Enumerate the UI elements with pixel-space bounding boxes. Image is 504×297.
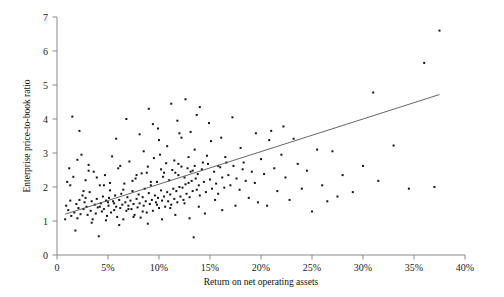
data-point <box>372 91 374 93</box>
data-point <box>236 178 238 180</box>
data-point <box>205 191 207 193</box>
data-point <box>76 217 78 219</box>
data-point <box>282 125 284 127</box>
data-point <box>142 196 144 198</box>
data-point <box>170 204 172 206</box>
data-point <box>136 198 138 200</box>
data-point <box>164 206 166 208</box>
data-point <box>114 195 116 197</box>
data-point <box>129 200 131 202</box>
data-point <box>352 191 354 193</box>
data-point <box>91 222 93 224</box>
data-point <box>176 201 178 203</box>
data-point <box>188 156 190 158</box>
x-tick-label: 30% <box>354 262 372 273</box>
data-point <box>189 217 191 219</box>
data-point <box>139 202 141 204</box>
data-point <box>239 189 241 191</box>
y-tick-label: 1 <box>43 216 48 227</box>
x-tick-label: 10% <box>150 262 168 273</box>
data-point <box>96 176 98 178</box>
x-axis-title: Return on net operating assets <box>204 277 319 287</box>
data-point <box>181 187 183 189</box>
data-point <box>220 137 222 139</box>
data-point <box>199 195 201 197</box>
data-point <box>143 150 145 152</box>
data-point <box>231 116 233 118</box>
data-point <box>108 197 110 199</box>
data-point <box>140 217 142 219</box>
data-point <box>146 212 148 214</box>
data-point <box>122 218 124 220</box>
y-tick-label: 7 <box>43 12 48 23</box>
data-point <box>109 189 111 191</box>
data-point <box>115 138 117 140</box>
data-point <box>163 196 165 198</box>
data-point <box>118 199 120 201</box>
data-point <box>175 190 177 192</box>
data-point <box>173 159 175 161</box>
data-point <box>165 162 167 164</box>
data-point <box>180 166 182 168</box>
data-point <box>213 171 215 173</box>
data-point <box>119 207 121 209</box>
data-point <box>138 193 140 195</box>
data-point <box>242 168 244 170</box>
data-point <box>321 184 323 186</box>
data-point <box>141 172 143 174</box>
data-point <box>215 183 217 185</box>
data-point <box>148 108 150 110</box>
data-point <box>95 213 97 215</box>
data-point <box>342 174 344 176</box>
data-point <box>229 184 231 186</box>
data-point <box>121 204 123 206</box>
data-point <box>177 163 179 165</box>
data-point <box>174 172 176 174</box>
data-point <box>306 170 308 172</box>
y-tick-label: 0 <box>43 250 48 261</box>
data-point <box>125 118 127 120</box>
data-point <box>101 210 103 212</box>
data-point <box>108 205 110 207</box>
axis-frame <box>57 17 465 255</box>
data-point <box>293 138 295 140</box>
data-point <box>107 201 109 203</box>
data-point <box>232 165 234 167</box>
data-point <box>337 196 339 198</box>
data-point <box>87 214 89 216</box>
data-point <box>146 172 148 174</box>
ticks-group <box>53 17 466 260</box>
data-point <box>180 137 182 139</box>
data-point <box>206 155 208 157</box>
data-point <box>270 130 272 132</box>
axes-group <box>57 17 465 255</box>
data-point <box>88 170 90 172</box>
data-point <box>166 145 168 147</box>
data-point <box>187 167 189 169</box>
y-tick-label: 3 <box>43 148 48 159</box>
data-point <box>148 192 150 194</box>
data-point <box>118 224 120 226</box>
data-point <box>93 171 95 173</box>
data-point <box>224 156 226 158</box>
data-point <box>161 200 163 202</box>
data-point <box>408 188 410 190</box>
data-point <box>439 30 441 32</box>
data-point <box>75 203 77 205</box>
data-point <box>194 165 196 167</box>
data-point <box>204 213 206 215</box>
x-tick-label: 40% <box>456 262 474 273</box>
data-point <box>221 176 223 178</box>
data-point <box>77 207 79 209</box>
data-point <box>202 162 204 164</box>
data-point <box>158 207 160 209</box>
data-point <box>110 212 112 214</box>
data-point <box>84 201 86 203</box>
data-point <box>135 178 137 180</box>
data-point <box>211 188 213 190</box>
data-point <box>243 162 245 164</box>
data-point <box>123 183 125 185</box>
data-point <box>169 207 171 209</box>
data-point <box>163 172 165 174</box>
x-tick-label: 15% <box>201 262 219 273</box>
